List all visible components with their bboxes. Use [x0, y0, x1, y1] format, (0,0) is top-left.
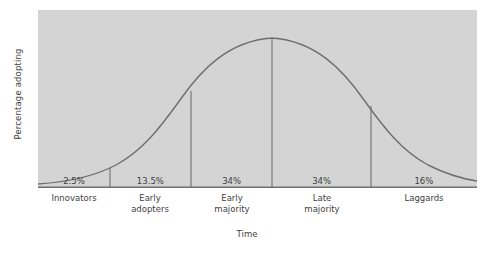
segment-label-late-majority-line2: majority — [304, 204, 339, 215]
segment-label-laggards: Laggards — [404, 193, 443, 204]
segment-value-late-majority: 34% — [312, 176, 331, 186]
segment-label-late-majority: Late majority — [304, 193, 339, 214]
y-axis-label-text: Percentage adopting — [13, 48, 23, 139]
diffusion-of-innovation-chart: Percentage adopting 2.5% 13.5% 34% 34% 1… — [0, 0, 494, 254]
segment-label-late-majority-line1: Late — [304, 193, 339, 204]
y-axis-label: Percentage adopting — [0, 0, 36, 188]
segment-label-early-majority: Early majority — [214, 193, 249, 214]
segment-label-early-majority-line1: Early — [214, 193, 249, 204]
plot-area: 2.5% 13.5% 34% 34% 16% — [38, 10, 477, 188]
segment-value-innovators: 2.5% — [63, 176, 85, 186]
x-axis-label: Time — [0, 229, 494, 239]
segment-label-innovators: Innovators — [51, 193, 96, 204]
segment-label-early-adopters: Early adopters — [131, 193, 169, 214]
segment-label-innovators-line1: Innovators — [51, 193, 96, 204]
segment-label-early-majority-line2: majority — [214, 204, 249, 215]
segment-label-early-adopters-line2: adopters — [131, 204, 169, 215]
segment-value-laggards: 16% — [414, 176, 433, 186]
segment-value-early-adopters: 13.5% — [137, 176, 164, 186]
bell-curve-svg — [38, 10, 477, 188]
segment-label-laggards-line1: Laggards — [404, 193, 443, 204]
segment-value-early-majority: 34% — [222, 176, 241, 186]
bell-curve-path — [38, 38, 477, 184]
segment-label-early-adopters-line1: Early — [131, 193, 169, 204]
